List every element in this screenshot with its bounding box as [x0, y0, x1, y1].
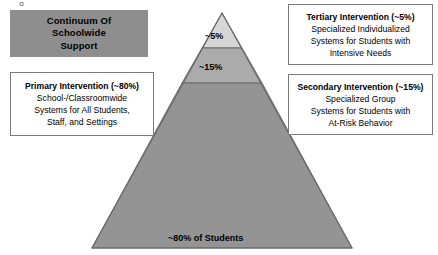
pbis-pyramid-diagram: ¤ Continuum Of Schoolwide Support ~5% ~1…	[0, 0, 438, 255]
corner-artifact-icon: ¤	[17, 0, 26, 8]
primary-line-1: School-/Classroomwide	[37, 92, 127, 104]
primary-title: Primary Intervention (~80%)	[25, 80, 139, 92]
tier-top-percent-label: ~5%	[205, 31, 223, 41]
tier-middle-percent-label: ~15%	[199, 62, 222, 72]
secondary-line-1: Specialized Group	[325, 93, 395, 105]
tier-base-percent-label: ~80% of Students	[168, 233, 243, 243]
tertiary-line-3: Intensive Needs	[330, 47, 392, 59]
secondary-title: Secondary Intervention (~15%)	[298, 81, 424, 93]
tertiary-title: Tertiary Intervention (~5%)	[306, 11, 414, 23]
tertiary-line-1: Specialized Individualized	[311, 23, 409, 35]
tertiary-line-2: Systems for Students with	[311, 35, 410, 47]
secondary-line-2: Systems for Students with	[311, 105, 410, 117]
primary-line-2: Systems for All Students,	[34, 104, 130, 116]
secondary-line-3: At-Risk Behavior	[329, 117, 393, 129]
primary-line-3: Staff, and Settings	[47, 116, 117, 128]
callout-secondary-intervention: Secondary Intervention (~15%) Specialize…	[288, 74, 433, 135]
callout-primary-intervention: Primary Intervention (~80%) School-/Clas…	[10, 72, 154, 136]
callout-tertiary-intervention: Tertiary Intervention (~5%) Specialized …	[288, 4, 433, 65]
